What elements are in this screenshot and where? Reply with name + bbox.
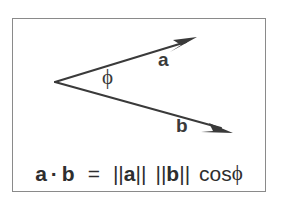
formula-equals-sign: = <box>88 163 100 184</box>
figure-root: a b ϕ a · b = || a || || b || cos ϕ <box>0 0 281 207</box>
formula-cos-function: cos <box>199 163 232 184</box>
formula-norm-b-open: || <box>155 163 166 184</box>
formula-norm-b-close: || <box>179 163 190 184</box>
formula-norm-a-vector: a <box>124 163 136 184</box>
angle-phi-label: ϕ <box>102 67 113 88</box>
formula-angle-phi: ϕ <box>232 163 243 184</box>
formula-lhs-vector-a: a <box>35 163 47 184</box>
vector-a-label: a <box>158 50 169 69</box>
formula-norm-a-open: || <box>113 163 124 184</box>
formula-dot-operator: · <box>51 163 58 184</box>
vector-b-label: b <box>176 116 188 135</box>
formula-lhs-vector-b: b <box>62 163 75 184</box>
formula-norm-b-vector: b <box>166 163 179 184</box>
dot-product-formula: a · b = || a || || b || cos ϕ <box>12 155 266 191</box>
formula-norm-a-close: || <box>136 163 147 184</box>
